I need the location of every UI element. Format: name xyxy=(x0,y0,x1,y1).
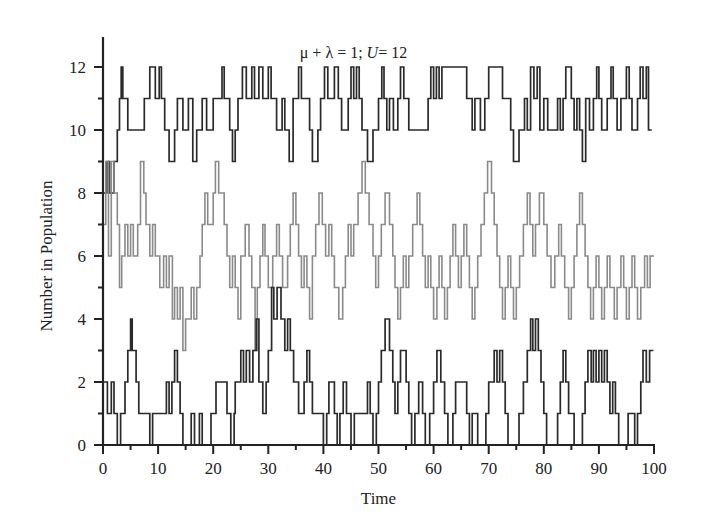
x-tick-label: 80 xyxy=(535,459,552,478)
x-tick-label: 0 xyxy=(99,459,108,478)
x-tick-label: 20 xyxy=(205,459,222,478)
chart-title: μ + λ = 1; U= 12 xyxy=(0,44,707,62)
x-tick-label: 90 xyxy=(590,459,607,478)
x-tick-label: 50 xyxy=(370,459,387,478)
y-tick-label: 10 xyxy=(69,121,86,140)
series-line-1 xyxy=(103,67,652,193)
x-tick-label: 100 xyxy=(641,459,667,478)
series-line-2 xyxy=(103,162,654,351)
series-layer xyxy=(103,67,654,445)
x-tick-label: 70 xyxy=(480,459,497,478)
y-axis-label: Number in Population xyxy=(37,180,57,331)
y-tick-label: 4 xyxy=(78,310,87,329)
x-tick-label: 10 xyxy=(150,459,167,478)
y-tick-label: 6 xyxy=(78,247,87,266)
chart-plot: 0102030405060708090100024681012 xyxy=(0,0,707,532)
y-tick-label: 0 xyxy=(78,436,87,455)
x-axis-label: Time xyxy=(103,489,654,509)
x-tick-label: 60 xyxy=(425,459,442,478)
x-tick-label: 30 xyxy=(260,459,277,478)
y-tick-label: 8 xyxy=(78,184,87,203)
y-tick-label: 2 xyxy=(78,373,87,392)
x-tick-label: 40 xyxy=(315,459,332,478)
